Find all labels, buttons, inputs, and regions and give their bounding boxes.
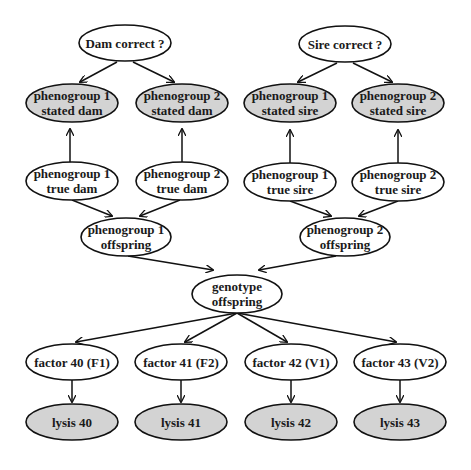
- node-pg1-true-dam: phenogroup 1true dam: [26, 162, 118, 200]
- node-label: Dam correct ?: [85, 36, 164, 51]
- node-label: lysis 41: [161, 415, 201, 430]
- node-label: true dam: [47, 181, 98, 196]
- node-factor41: factor 41 (F2): [135, 344, 227, 380]
- node-factor40: factor 40 (F1): [26, 344, 118, 380]
- node-pg1-stated-sire: phenogroup 1stated sire: [244, 84, 336, 122]
- node-label: true dam: [157, 181, 208, 196]
- node-pg2-true-dam: phenogroup 2true dam: [136, 162, 228, 200]
- node-label: offspring: [212, 294, 263, 309]
- node-pg2-true-sire: phenogroup 2true sire: [352, 163, 444, 201]
- node-label: factor 40 (F1): [34, 355, 110, 370]
- node-lysis40: lysis 40: [26, 404, 118, 440]
- edge-sire_correct-to-pg1_stated_sire: [298, 63, 337, 82]
- edge-pg2_true_sire-to-pg2_offspring: [359, 201, 398, 216]
- node-label: phenogroup 1: [34, 166, 111, 181]
- node-label: factor 42 (V1): [252, 355, 329, 370]
- node-pg1-true-sire: phenogroup 1true sire: [244, 163, 336, 201]
- edge-pg1_true_sire-to-pg2_offspring: [290, 201, 331, 216]
- node-label: stated sire: [370, 103, 427, 118]
- node-label: phenogroup 2: [360, 88, 437, 103]
- node-pg2-stated-sire: phenogroup 2stated sire: [352, 84, 444, 122]
- edge-genotype_offspring-to-factor40: [76, 313, 237, 342]
- node-label: lysis 40: [52, 415, 92, 430]
- edge-dam_correct-to-pg1_stated_dam: [80, 62, 117, 82]
- node-label: Sire correct ?: [308, 37, 383, 52]
- node-factor43: factor 43 (V2): [354, 344, 446, 380]
- node-label: stated dam: [151, 103, 212, 118]
- node-pg2-offspring: phenogroup 2offspring: [300, 218, 390, 256]
- node-label: true sire: [267, 182, 314, 197]
- node-label: true sire: [375, 182, 422, 197]
- node-label: phenogroup 2: [144, 88, 221, 103]
- node-label: factor 43 (V2): [361, 355, 438, 370]
- node-label: genotype: [212, 279, 262, 294]
- node-label: phenogroup 2: [307, 222, 384, 237]
- edge-pg2_true_dam-to-pg1_offspring: [140, 200, 180, 216]
- node-label: stated sire: [262, 103, 319, 118]
- edge-sire_correct-to-pg2_stated_sire: [353, 63, 392, 82]
- node-label: phenogroup 1: [252, 167, 329, 182]
- node-lysis43: lysis 43: [354, 404, 446, 440]
- node-label: lysis 43: [380, 415, 421, 430]
- node-label: offspring: [320, 237, 371, 252]
- node-label: lysis 42: [271, 415, 311, 430]
- node-pg1-offspring: phenogroup 1offspring: [81, 218, 171, 256]
- node-label: phenogroup 1: [88, 222, 165, 237]
- nodes-layer: Dam correct ?Sire correct ?phenogroup 1s…: [26, 25, 446, 440]
- node-label: phenogroup 1: [252, 88, 329, 103]
- node-factor42: factor 42 (V1): [245, 344, 337, 380]
- node-genotype-offspring: genotypeoffspring: [192, 275, 282, 313]
- node-pg2-stated-dam: phenogroup 2stated dam: [136, 84, 228, 122]
- node-label: stated dam: [41, 103, 102, 118]
- edge-dam_correct-to-pg2_stated_dam: [133, 62, 174, 82]
- node-sire-correct: Sire correct ?: [299, 26, 391, 62]
- node-dam-correct: Dam correct ?: [79, 25, 171, 61]
- edge-pg1_true_dam-to-pg1_offspring: [72, 200, 112, 216]
- pedigree-network-diagram: Dam correct ?Sire correct ?phenogroup 1s…: [0, 0, 471, 470]
- node-lysis41: lysis 41: [135, 404, 227, 440]
- node-label: phenogroup 1: [34, 88, 111, 103]
- node-label: factor 41 (F2): [143, 355, 219, 370]
- node-pg1-stated-dam: phenogroup 1stated dam: [26, 84, 118, 122]
- node-label: offspring: [101, 237, 152, 252]
- edge-pg1_offspring-to-genotype_offspring: [128, 256, 213, 270]
- edge-pg2_offspring-to-genotype_offspring: [259, 256, 336, 270]
- node-label: phenogroup 2: [360, 167, 437, 182]
- node-label: phenogroup 2: [144, 166, 221, 181]
- node-lysis42: lysis 42: [245, 404, 337, 440]
